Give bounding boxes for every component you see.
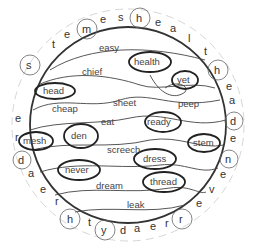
ring-letter: d	[230, 115, 236, 127]
word: easy	[99, 42, 119, 53]
ring-letter: y	[101, 224, 107, 236]
ring-letter: e	[100, 13, 106, 25]
word: sheet	[113, 97, 137, 108]
ring-letter: e	[150, 220, 156, 232]
ring-letter: r	[179, 213, 183, 225]
ring-letter: e	[220, 168, 226, 180]
word-circled: never	[65, 164, 89, 175]
word-circled: yet	[177, 74, 190, 85]
ring-letter: h	[67, 213, 73, 225]
word: peep	[178, 98, 199, 109]
word-circled: health	[134, 56, 160, 67]
ring-letter: s	[118, 11, 124, 23]
ring-letter: t	[52, 38, 55, 50]
ring-letter: e	[226, 80, 232, 92]
word-circled: mesh	[23, 135, 46, 146]
ring-letter: v	[209, 183, 215, 195]
word-circled: stem	[193, 137, 214, 148]
word-circled: den	[71, 130, 87, 141]
ring-letter: h	[136, 12, 142, 24]
ring-letter: d	[120, 224, 126, 236]
ring-letter: h	[214, 64, 220, 76]
word-circled: dress	[143, 153, 166, 164]
wavy-lines	[30, 50, 226, 212]
ring-letter: a	[229, 94, 236, 106]
ring-letter: e	[155, 16, 161, 28]
ring-letter: e	[40, 183, 46, 195]
word: cheap	[52, 103, 78, 114]
word-circled: thread	[150, 176, 177, 187]
ring-letter: m	[82, 23, 91, 35]
ring-letter: t	[204, 45, 207, 57]
ring-letter: a	[170, 22, 177, 34]
word: eat	[101, 116, 115, 127]
word: screech	[107, 144, 140, 155]
word: leak	[127, 199, 145, 210]
ring-letter: t	[88, 216, 91, 228]
word-puzzle-circle: d r e s t e m e s h e a l t h e a d e n …	[0, 0, 253, 247]
ring-letter: d	[18, 154, 24, 166]
ring-letter: a	[134, 222, 141, 234]
word: chief	[82, 66, 102, 77]
word-circled: head	[43, 85, 64, 96]
word-circled: ready	[147, 116, 171, 127]
ring-letter: e	[64, 28, 70, 40]
ring-letter: a	[28, 167, 35, 179]
ring-letter: l	[188, 32, 190, 44]
word: dream	[96, 180, 123, 191]
ring-letter: n	[225, 153, 231, 165]
ring-letter: r	[165, 217, 169, 229]
ring-letter: e	[15, 112, 21, 124]
ring-letter: e	[230, 132, 236, 144]
ring-letter: e	[196, 197, 202, 209]
ring-letter: r	[55, 195, 59, 207]
ring-letter: s	[26, 59, 32, 71]
